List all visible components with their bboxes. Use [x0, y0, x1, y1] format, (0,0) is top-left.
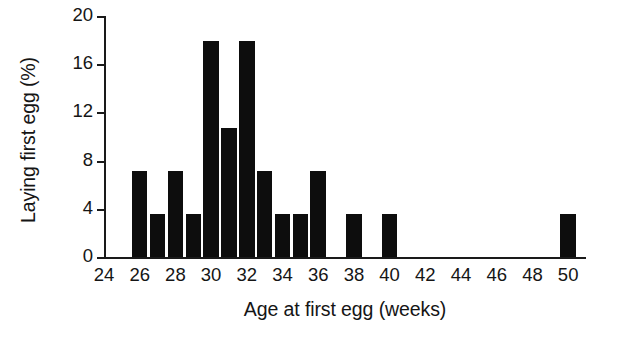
y-tick-label: 12 — [72, 101, 93, 121]
x-tick-label: 26 — [129, 264, 150, 285]
x-tick-label: 42 — [415, 264, 436, 285]
histogram-bar — [257, 171, 272, 257]
x-tick-label: 30 — [201, 264, 222, 285]
histogram-bar — [382, 214, 397, 257]
y-tick-label: 0 — [83, 246, 93, 266]
histogram-bar — [221, 128, 236, 257]
histogram-bar — [239, 41, 254, 257]
x-tick-label: 32 — [237, 264, 258, 285]
histogram-bar — [168, 171, 183, 257]
histogram-bar — [150, 214, 165, 257]
histogram-bar — [346, 214, 361, 257]
x-tick-label: 36 — [308, 264, 329, 285]
y-tick-label: 16 — [72, 53, 93, 73]
y-tick-mark — [97, 16, 104, 18]
y-tick-label: 8 — [83, 150, 93, 170]
histogram-bar — [186, 214, 201, 257]
x-tick-label: 38 — [344, 264, 365, 285]
histogram-bar — [203, 41, 218, 257]
x-tick-label: 28 — [165, 264, 186, 285]
histogram-figure: Laying first egg (%) 048121620 242628303… — [0, 0, 617, 339]
x-tick-label: 40 — [379, 264, 400, 285]
histogram-bar — [132, 171, 147, 257]
y-tick-mark — [97, 161, 104, 163]
x-tick-label: 24 — [94, 264, 115, 285]
x-tick-label: 46 — [486, 264, 507, 285]
histogram-bar — [560, 214, 575, 257]
x-tick-label: 48 — [522, 264, 543, 285]
x-axis-title: Age at first egg (weeks) — [104, 298, 586, 321]
plot-area: 048121620 2426283032343638404244464850 — [104, 16, 586, 259]
x-tick-label: 50 — [558, 264, 579, 285]
y-tick-label: 20 — [72, 5, 93, 25]
histogram-bar — [293, 214, 308, 257]
x-tick-label: 34 — [272, 264, 293, 285]
histogram-bar — [310, 171, 325, 257]
histogram-bar — [275, 214, 290, 257]
y-tick-label: 4 — [83, 198, 93, 218]
y-axis-line — [104, 16, 106, 259]
y-tick-mark — [97, 209, 104, 211]
x-tick-label: 44 — [451, 264, 472, 285]
y-tick-mark — [97, 257, 104, 259]
y-tick-mark — [97, 64, 104, 66]
y-axis-title: Laying first egg (%) — [6, 4, 50, 276]
y-tick-mark — [97, 112, 104, 114]
x-axis-line — [104, 257, 586, 259]
